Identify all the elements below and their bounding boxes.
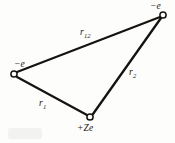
edge-r1	[17, 77, 87, 115]
label-distance-r2: r2	[129, 68, 136, 79]
label-distance-r1: r1	[39, 99, 46, 110]
edge-r2	[93, 18, 161, 114]
label-electron-left: −e	[14, 60, 25, 70]
label-r12-subscript: 12	[84, 32, 91, 39]
particle-marker-nucleus	[87, 114, 93, 120]
label-r1-subscript: 1	[43, 103, 46, 110]
physics-figure-canvas: −e −e +Ze r12 r2 r1	[0, 0, 175, 143]
label-r2-subscript: 2	[133, 72, 136, 79]
particle-marker-electron-top-right	[160, 12, 166, 18]
label-electron-top-right: −e	[150, 2, 161, 12]
label-distance-r12: r12	[80, 28, 90, 39]
triangle-diagram	[0, 0, 175, 143]
particle-marker-electron-left	[11, 71, 17, 77]
label-nucleus: +Ze	[77, 124, 94, 134]
edge-r12	[17, 17, 160, 72]
